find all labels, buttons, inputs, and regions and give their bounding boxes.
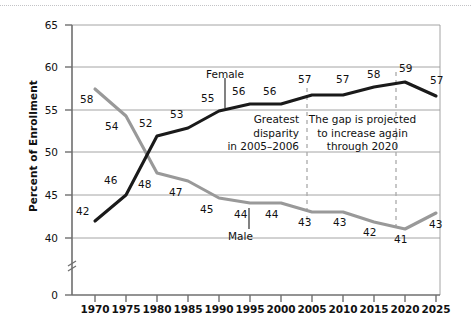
data-label-female-2020: 59 (399, 62, 412, 74)
y-tick-label-45: 45 (28, 189, 58, 201)
data-label-female-1995: 56 (232, 85, 245, 97)
x-tick-label-2025: 2025 (414, 303, 458, 315)
data-label-male-1995: 44 (234, 208, 247, 220)
y-tick-label-65: 65 (28, 19, 58, 31)
y-tick-label-0: 0 (28, 289, 58, 301)
annotation-greatest-disparity-line-3: in 2005–2006 (179, 140, 299, 154)
chart-figure: Percent of Enrollment 65 60 55 50 45 40 … (0, 0, 471, 317)
data-label-male-1970: 58 (80, 93, 93, 105)
data-label-male-1985: 47 (169, 186, 182, 198)
y-tick-label-40: 40 (28, 232, 58, 244)
annotation-greatest-disparity-line-2: disparity (179, 127, 299, 141)
data-label-female-2010: 57 (336, 73, 349, 85)
data-label-male-1980: 48 (138, 178, 151, 190)
annotation-gap-projected-line-2: to increase again (305, 127, 420, 141)
annotation-gap-projected-line-1: The gap is projected (305, 113, 420, 127)
data-label-female-2005: 57 (298, 73, 311, 85)
chart-canvas (0, 0, 471, 317)
data-label-male-2010: 43 (333, 216, 346, 228)
data-label-male-2005: 43 (298, 216, 311, 228)
y-tick-label-55: 55 (28, 104, 58, 116)
data-label-female-2025: 57 (430, 74, 443, 86)
data-label-male-2000: 44 (265, 208, 278, 220)
data-label-female-1970: 42 (76, 205, 89, 217)
annotation-greatest-disparity: Greatest disparity in 2005–2006 (179, 113, 299, 154)
data-label-female-1990: 55 (201, 92, 214, 104)
data-label-female-2015: 58 (367, 68, 380, 80)
data-label-male-2025: 43 (429, 218, 442, 230)
data-label-female-2000: 56 (263, 85, 276, 97)
x-tick-marks (95, 295, 436, 302)
y-tick-label-50: 50 (28, 146, 58, 158)
y-tick-label-60: 60 (28, 61, 58, 73)
annotation-gap-projected-line-3: through 2020 (305, 140, 420, 154)
data-label-female-1980: 52 (139, 117, 152, 129)
annotation-greatest-disparity-line-1: Greatest (179, 113, 299, 127)
y-tick-marks (65, 25, 72, 295)
annotation-gap-projected: The gap is projected to increase again t… (305, 113, 420, 154)
data-label-male-2020: 41 (394, 233, 407, 245)
series-label-male: Male (228, 230, 253, 242)
series-label-female: Female (206, 68, 244, 80)
data-label-male-1990: 45 (200, 203, 213, 215)
data-label-male-1975: 54 (105, 120, 118, 132)
data-label-male-2015: 42 (363, 226, 376, 238)
data-label-female-1975: 46 (104, 174, 117, 186)
